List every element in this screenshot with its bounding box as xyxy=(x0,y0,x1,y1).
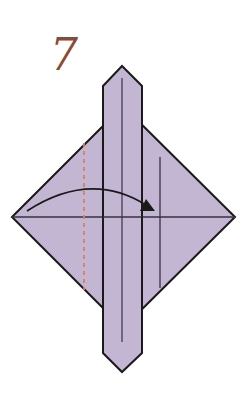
origami-fold-diagram xyxy=(0,0,250,394)
